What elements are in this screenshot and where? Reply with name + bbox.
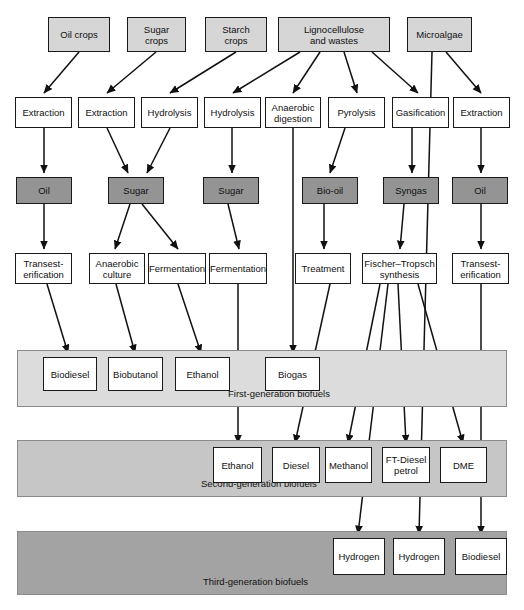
connector-starch-crops-to-hydrolysis-1 <box>170 52 236 93</box>
node-label: Fermentation <box>210 263 266 274</box>
node-label: Microalgae <box>416 29 462 40</box>
node-label: Biobutanol <box>113 369 158 380</box>
feedstock-lignocellulose[interactable]: Lignocelluloseand wastes <box>278 17 390 52</box>
process-treatment[interactable]: Treatment <box>295 253 351 284</box>
connector-lignocellulose-to-anaerobic-digestion <box>293 52 320 93</box>
node-label: Extraction <box>460 107 502 118</box>
node-label: Hydrogen <box>338 551 379 562</box>
band-label-third-generation: Third-generation biofuels <box>203 576 308 587</box>
node-label: Hydrogen <box>398 551 439 562</box>
product-ethanol-1g[interactable]: Ethanol <box>175 357 230 391</box>
product-biobutanol-1g[interactable]: Biobutanol <box>108 357 163 391</box>
process-fermentation-1[interactable]: Fermentation <box>148 253 206 284</box>
node-label: Oil crops <box>60 29 97 40</box>
process-extraction-2[interactable]: Extraction <box>78 97 135 128</box>
node-label: Sugar <box>123 185 148 196</box>
process-transesterification-1[interactable]: Transest-erification <box>15 253 72 284</box>
feedstock-oil-crops[interactable]: Oil crops <box>48 17 110 52</box>
product-dme-2g[interactable]: DME <box>440 447 487 483</box>
process-extraction-3[interactable]: Extraction <box>453 97 510 128</box>
node-label: Hydrolysis <box>211 107 255 118</box>
feedstock-starch-crops[interactable]: Starchcrops <box>205 17 267 52</box>
process-gasification[interactable]: Gasification <box>392 97 449 128</box>
connector-syngas-to-fischer-tropsch <box>400 204 404 249</box>
product-biodiesel-3g[interactable]: Biodiesel <box>455 538 507 575</box>
intermediate-oil-2[interactable]: Oil <box>452 177 508 204</box>
connector-layer <box>0 0 524 610</box>
intermediate-bio-oil[interactable]: Bio-oil <box>302 177 358 204</box>
biofuel-pathway-diagram: First-generation biofuelsSecond-generati… <box>0 0 524 610</box>
connector-sugar-crops-to-extraction-2 <box>107 52 156 93</box>
process-anaerobic-digestion[interactable]: Anaerobicdigestion <box>265 97 321 128</box>
connector-lignocellulose-to-hydrolysis-2 <box>233 52 300 93</box>
node-label: Ethanol <box>186 369 218 380</box>
node-label: Ethanol <box>221 460 253 471</box>
process-fermentation-2[interactable]: Fermentation <box>209 253 267 284</box>
process-hydrolysis-2[interactable]: Hydrolysis <box>204 97 261 128</box>
node-label: Fischer–Tropschsynthesis <box>364 258 434 280</box>
node-label: Methanol <box>329 460 368 471</box>
node-label: Biogas <box>278 369 307 380</box>
connector-extraction-2-to-sugar-1 <box>107 128 128 173</box>
connector-lignocellulose-to-gasification <box>372 52 418 93</box>
node-label: Lignocelluloseand wastes <box>304 24 364 46</box>
node-label: Anaerobicdigestion <box>272 102 315 124</box>
node-label: FT-Dieselpetrol <box>386 454 427 476</box>
connector-sugar-1-to-fermentation-1 <box>142 204 178 249</box>
node-label: Hydrolysis <box>148 107 192 118</box>
node-label: Transest-erification <box>23 258 64 280</box>
intermediate-sugar-2[interactable]: Sugar <box>203 177 259 204</box>
node-label: Diesel <box>283 460 309 471</box>
process-pyrolysis[interactable]: Pyrolysis <box>328 97 385 128</box>
node-label: Treatment <box>302 263 345 274</box>
node-label: Biodiesel <box>462 551 501 562</box>
connector-sugar-1-to-anaerobic-culture <box>115 204 130 249</box>
connector-transesterification-1-to-biodiesel-1g <box>47 284 68 353</box>
node-label: Starchcrops <box>222 24 249 46</box>
process-fischer-tropsch[interactable]: Fischer–Tropschsynthesis <box>362 253 437 284</box>
feedstock-microalgae[interactable]: Microalgae <box>407 17 472 52</box>
node-label: Gasification <box>396 107 446 118</box>
product-methanol-2g[interactable]: Methanol <box>325 447 372 483</box>
product-biogas-1g[interactable]: Biogas <box>265 357 320 391</box>
node-label: Transest-erification <box>460 258 501 280</box>
process-extraction-1[interactable]: Extraction <box>15 97 72 128</box>
node-label: Oil <box>474 185 486 196</box>
node-label: Anaerobicculture <box>96 258 139 280</box>
connector-oil-crops-to-extraction-1 <box>44 52 79 93</box>
process-anaerobic-culture[interactable]: Anaerobicculture <box>89 253 145 284</box>
node-label: Sugar <box>218 185 243 196</box>
connector-microalgae-to-extraction-3 <box>446 52 481 93</box>
feedstock-sugar-crops[interactable]: Sugarcrops <box>127 17 186 52</box>
product-ethanol-2g[interactable]: Ethanol <box>213 447 262 483</box>
intermediate-sugar-1[interactable]: Sugar <box>108 177 164 204</box>
product-diesel-2g[interactable]: Diesel <box>272 447 320 483</box>
node-label: Syngas <box>395 185 427 196</box>
node-label: Extraction <box>22 107 64 118</box>
node-label: Biodiesel <box>51 369 90 380</box>
node-label: Oil <box>38 185 50 196</box>
connector-pyrolysis-to-bio-oil <box>330 128 345 173</box>
process-transesterification-2[interactable]: Transest-erification <box>452 253 509 284</box>
connector-hydrolysis-1-to-sugar-1 <box>147 128 170 173</box>
intermediate-oil-1[interactable]: Oil <box>16 177 72 204</box>
intermediate-syngas[interactable]: Syngas <box>383 177 439 204</box>
node-label: Bio-oil <box>317 185 343 196</box>
node-label: Fermentation <box>149 263 205 274</box>
product-biodiesel-1g[interactable]: Biodiesel <box>43 357 97 391</box>
connector-lignocellulose-to-pyrolysis <box>344 52 357 93</box>
node-label: Pyrolysis <box>337 107 375 118</box>
product-ft-diesel-petrol-2g[interactable]: FT-Dieselpetrol <box>382 447 430 483</box>
process-hydrolysis-1[interactable]: Hydrolysis <box>141 97 198 128</box>
connector-sugar-2-to-fermentation-2 <box>228 204 239 249</box>
node-label: Sugarcrops <box>144 24 169 46</box>
connector-anaerobic-culture-to-biobutanol-1g <box>116 284 135 353</box>
product-hydrogen-3g-1[interactable]: Hydrogen <box>333 538 385 575</box>
product-hydrogen-3g-2[interactable]: Hydrogen <box>393 538 445 575</box>
node-label: Extraction <box>85 107 127 118</box>
node-label: DME <box>453 460 474 471</box>
connector-fermentation-1-to-ethanol-1g <box>178 284 201 353</box>
